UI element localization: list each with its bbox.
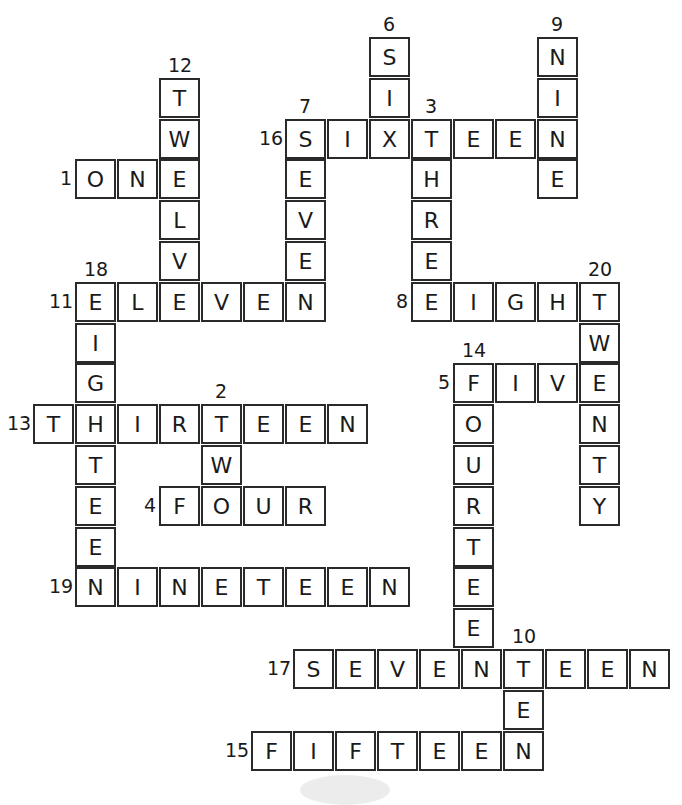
grid-cell[interactable]: T — [159, 78, 200, 118]
grid-cell[interactable]: T — [411, 119, 452, 159]
grid-cell[interactable]: I — [75, 323, 116, 363]
grid-cell[interactable]: T — [503, 649, 544, 689]
grid-cell[interactable]: N — [537, 119, 578, 159]
grid-cell[interactable]: E — [75, 486, 116, 526]
grid-cell[interactable]: E — [411, 282, 452, 322]
grid-cell[interactable]: E — [453, 567, 494, 607]
grid-cell[interactable]: R — [159, 404, 200, 444]
grid-cell[interactable]: E — [537, 159, 578, 199]
grid-cell[interactable]: H — [411, 159, 452, 199]
grid-cell[interactable]: E — [453, 608, 494, 648]
grid-cell[interactable]: T — [75, 445, 116, 485]
grid-cell[interactable]: E — [285, 404, 326, 444]
grid-cell[interactable]: L — [117, 282, 158, 322]
grid-cell[interactable]: N — [117, 159, 158, 199]
grid-cell[interactable]: T — [377, 731, 418, 771]
grid-cell[interactable]: N — [537, 37, 578, 77]
grid-cell[interactable]: E — [411, 241, 452, 281]
grid-cell[interactable]: E — [503, 690, 544, 730]
grid-cell[interactable]: N — [75, 567, 116, 607]
grid-cell[interactable]: E — [327, 567, 368, 607]
grid-cell[interactable]: E — [461, 731, 502, 771]
grid-cell[interactable]: R — [453, 486, 494, 526]
grid-cell[interactable]: E — [201, 567, 242, 607]
grid-cell[interactable]: W — [579, 323, 620, 363]
grid-cell[interactable]: S — [293, 649, 334, 689]
grid-cell[interactable]: L — [159, 200, 200, 240]
grid-cell[interactable]: T — [33, 404, 74, 444]
grid-cell[interactable]: N — [629, 649, 670, 689]
grid-cell[interactable]: I — [369, 78, 410, 118]
grid-cell[interactable]: F — [251, 731, 292, 771]
grid-cell[interactable]: N — [579, 404, 620, 444]
grid-cell[interactable]: F — [159, 486, 200, 526]
grid-cell[interactable]: E — [419, 649, 460, 689]
grid-cell[interactable]: E — [495, 119, 536, 159]
grid-cell[interactable]: F — [453, 363, 494, 403]
clue-number-13: 13 — [7, 414, 31, 433]
grid-cell[interactable]: O — [201, 486, 242, 526]
grid-cell[interactable]: I — [495, 363, 536, 403]
grid-cell[interactable]: E — [159, 159, 200, 199]
grid-cell[interactable]: W — [159, 119, 200, 159]
grid-cell[interactable]: E — [285, 241, 326, 281]
clue-number-2: 2 — [215, 382, 227, 401]
grid-cell[interactable]: F — [335, 731, 376, 771]
grid-cell[interactable]: E — [285, 567, 326, 607]
grid-cell[interactable]: E — [285, 159, 326, 199]
grid-cell[interactable]: H — [75, 404, 116, 444]
grid-cell[interactable]: S — [285, 119, 326, 159]
grid-cell[interactable]: T — [201, 404, 242, 444]
grid-cell[interactable]: E — [587, 649, 628, 689]
grid-cell[interactable]: R — [411, 200, 452, 240]
clue-number-18: 18 — [84, 260, 108, 279]
grid-cell[interactable]: N — [159, 567, 200, 607]
grid-cell[interactable]: S — [369, 37, 410, 77]
grid-cell[interactable]: O — [75, 159, 116, 199]
grid-cell[interactable]: I — [293, 731, 334, 771]
grid-cell[interactable]: E — [545, 649, 586, 689]
grid-cell[interactable]: V — [201, 282, 242, 322]
grid-cell[interactable]: G — [495, 282, 536, 322]
grid-cell[interactable]: E — [419, 731, 460, 771]
grid-cell[interactable]: E — [159, 282, 200, 322]
grid-cell[interactable]: U — [243, 486, 284, 526]
grid-cell[interactable]: N — [461, 649, 502, 689]
grid-cell[interactable]: I — [117, 404, 158, 444]
clue-number-7: 7 — [299, 97, 311, 116]
grid-cell[interactable]: V — [159, 241, 200, 281]
grid-cell[interactable]: T — [453, 527, 494, 567]
grid-cell[interactable]: E — [243, 282, 284, 322]
grid-cell[interactable]: V — [285, 200, 326, 240]
grid-cell[interactable]: I — [117, 567, 158, 607]
grid-cell[interactable]: I — [327, 119, 368, 159]
grid-cell[interactable]: E — [579, 363, 620, 403]
clue-number-6: 6 — [383, 15, 395, 34]
grid-cell[interactable]: T — [579, 445, 620, 485]
grid-cell[interactable]: N — [285, 282, 326, 322]
grid-cell[interactable]: W — [201, 445, 242, 485]
clue-number-4: 4 — [144, 496, 156, 515]
grid-cell[interactable]: G — [75, 363, 116, 403]
grid-cell[interactable]: E — [75, 527, 116, 567]
grid-cell[interactable]: Y — [579, 486, 620, 526]
grid-cell[interactable]: U — [453, 445, 494, 485]
grid-cell[interactable]: H — [537, 282, 578, 322]
grid-cell[interactable]: R — [285, 486, 326, 526]
clue-number-8: 8 — [396, 292, 408, 311]
grid-cell[interactable]: E — [243, 404, 284, 444]
grid-cell[interactable]: T — [579, 282, 620, 322]
grid-cell[interactable]: N — [327, 404, 368, 444]
grid-cell[interactable]: I — [453, 282, 494, 322]
grid-cell[interactable]: E — [453, 119, 494, 159]
grid-cell[interactable]: E — [75, 282, 116, 322]
grid-cell[interactable]: V — [377, 649, 418, 689]
grid-cell[interactable]: N — [369, 567, 410, 607]
grid-cell[interactable]: N — [503, 731, 544, 771]
grid-cell[interactable]: O — [453, 404, 494, 444]
grid-cell[interactable]: T — [243, 567, 284, 607]
grid-cell[interactable]: X — [369, 119, 410, 159]
grid-cell[interactable]: I — [537, 78, 578, 118]
grid-cell[interactable]: V — [537, 363, 578, 403]
grid-cell[interactable]: E — [335, 649, 376, 689]
